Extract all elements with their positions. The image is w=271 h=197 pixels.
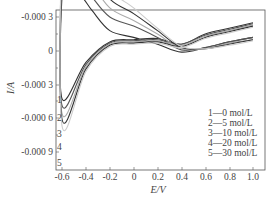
legend-item-5: 5—30 mol/L — [208, 148, 258, 158]
x-tick-label: 0.4 — [176, 172, 188, 182]
curve-label-2: 2 — [57, 113, 62, 123]
y-tick-label: -0.000 3 — [21, 12, 53, 22]
cyclic-voltammetry-chart: -0.000 3 0 -0.000 3 -0.000 6 -0.000 9 I/… — [0, 0, 271, 197]
x-tick-labels: -0.6 -0.4 -0.2 0 0.2 0.4 0.6 0.8 1.0 — [54, 172, 259, 182]
x-tick-label: 1.0 — [247, 172, 259, 182]
curve-label-4: 4 — [57, 142, 62, 152]
legend-item-4: 4—20 mol/L — [208, 138, 258, 148]
curve-label-1: 1 — [57, 95, 62, 105]
x-axis — [62, 167, 253, 170]
x-tick-label: -0.4 — [78, 172, 93, 182]
cv-curve-1 — [60, 0, 253, 101]
legend-item-1: 1—0 mol/L — [208, 108, 253, 118]
cv-curve-4 — [60, 0, 253, 123]
curve-label-5: 5 — [57, 158, 62, 168]
y-tick-labels: -0.000 3 0 -0.000 3 -0.000 6 -0.000 9 — [21, 12, 53, 157]
x-tick-label: 0.2 — [152, 172, 164, 182]
x-tick-label: 0.6 — [200, 172, 212, 182]
x-tick-label: -0.2 — [102, 172, 117, 182]
y-tick-label: -0.000 6 — [21, 113, 53, 123]
x-axis-title: E/V — [150, 184, 168, 195]
legend-item-2: 2—5 mol/L — [208, 118, 253, 128]
cv-curve-2 — [60, 0, 253, 108]
y-tick-label: -0.000 3 — [21, 80, 53, 90]
legend: 1—0 mol/L 2—5 mol/L 3—10 mol/L 4—20 mol/… — [208, 108, 258, 158]
y-tick-label: -0.000 9 — [21, 147, 53, 157]
x-tick-label: -0.6 — [54, 172, 69, 182]
x-tick-label: 0 — [132, 172, 137, 182]
curve-label-3: 3 — [57, 129, 62, 139]
y-tick-label: 0 — [48, 46, 53, 56]
legend-item-3: 3—10 mol/L — [208, 128, 258, 138]
x-tick-label: 0.8 — [224, 172, 236, 182]
y-axis-title: I/A — [5, 81, 16, 95]
